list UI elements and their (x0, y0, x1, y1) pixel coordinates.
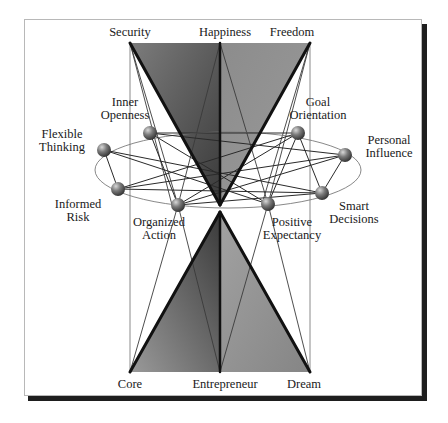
sphere-organized-action (171, 198, 185, 212)
label-freedom: Freedom (262, 26, 322, 39)
label-smart-decisions: Smart Decisions (322, 200, 386, 226)
sphere-flexible-thinking (97, 143, 111, 157)
label-flexible-thinking: Flexible Thinking (30, 128, 94, 154)
sphere-goal-orientation (291, 126, 305, 140)
label-core: Core (115, 378, 145, 391)
sphere-informed-risk (111, 182, 125, 196)
label-entrepreneur: Entrepreneur (180, 378, 270, 391)
label-happiness: Happiness (190, 26, 260, 39)
sphere-smart-decisions (315, 186, 329, 200)
sphere-positive-expectancy (261, 197, 275, 211)
label-informed-risk: Informed Risk (46, 198, 110, 224)
label-personal-influence: Personal Influence (356, 134, 422, 160)
sphere-inner-openness (143, 126, 157, 140)
label-inner-openness: Inner Openness (94, 96, 156, 122)
label-positive-expectancy: Positive Expectancy (256, 216, 328, 242)
label-security: Security (100, 26, 160, 39)
label-organized-action: Organized Action (126, 216, 192, 242)
label-goal-orientation: Goal Orientation (282, 96, 354, 122)
sphere-personal-influence (338, 148, 352, 162)
label-dream: Dream (282, 378, 326, 391)
